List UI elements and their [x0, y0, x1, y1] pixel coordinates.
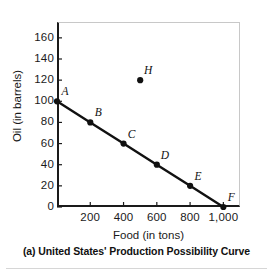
x-tick-label: 400 [114, 212, 134, 224]
y-tick-label: 120 [20, 74, 54, 86]
x-tick-label: 600 [147, 212, 167, 224]
point-label-a: A [61, 87, 68, 99]
point-label-h: H [144, 65, 152, 77]
point-label-f: F [228, 192, 235, 204]
production-possibility-curve-figure: 020406080100120140160 2004006008001,000 … [0, 0, 273, 275]
x-axis-title: Food (in tons) [57, 229, 240, 241]
y-tick-label: 0 [20, 201, 54, 213]
x-tick-label: 800 [180, 212, 200, 224]
y-axis-title: Oil (in barrels) [11, 46, 23, 166]
x-tick-label: 200 [80, 212, 100, 224]
point-label-b: B [95, 108, 102, 120]
y-tick-label: 140 [20, 53, 54, 65]
point-label-e: E [195, 171, 202, 183]
y-tick-label: 40 [20, 159, 54, 171]
y-axis-ticks [57, 38, 62, 207]
y-tick-label: 20 [20, 180, 54, 192]
point-label-d: D [161, 150, 169, 162]
point-label-c: C [128, 129, 136, 141]
x-tick-label: 1,000 [208, 212, 238, 224]
bottom-divider [6, 268, 267, 269]
data-point-markers [54, 77, 227, 210]
chart-data-layer [57, 22, 240, 207]
ppc-line [57, 101, 223, 207]
y-tick-label: 100 [20, 95, 54, 107]
y-tick-label: 80 [20, 116, 54, 128]
x-axis-tick-labels: 2004006008001,000 [0, 212, 273, 228]
y-tick-label: 160 [20, 32, 54, 44]
x-axis-ticks [90, 202, 223, 207]
figure-caption: (a) United States' Production Possibilit… [0, 245, 273, 257]
y-tick-label: 60 [20, 138, 54, 150]
